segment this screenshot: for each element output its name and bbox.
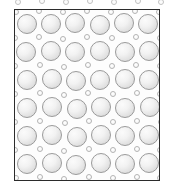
top-fringe-ring	[39, 0, 45, 4]
small-ring	[134, 118, 140, 124]
small-ring	[14, 175, 19, 181]
small-ring	[158, 119, 160, 125]
small-ring	[110, 91, 116, 97]
small-ring	[157, 147, 160, 153]
large-sphere	[139, 41, 159, 61]
small-ring	[37, 146, 43, 152]
small-ring	[133, 34, 139, 40]
large-sphere	[42, 69, 62, 89]
small-ring	[84, 9, 90, 14]
small-ring	[14, 9, 19, 15]
large-sphere	[66, 71, 86, 91]
small-ring	[36, 9, 42, 14]
large-sphere	[17, 126, 37, 146]
large-sphere	[41, 14, 61, 34]
large-sphere	[115, 98, 135, 118]
lattice-frame	[14, 9, 160, 181]
large-sphere	[90, 41, 110, 61]
small-ring	[86, 146, 92, 152]
large-sphere	[67, 99, 87, 119]
small-ring	[14, 119, 18, 125]
small-ring	[60, 36, 66, 42]
large-sphere	[115, 154, 135, 174]
small-ring	[134, 90, 140, 96]
large-sphere	[16, 42, 36, 62]
small-ring	[37, 174, 43, 180]
large-sphere	[140, 97, 160, 117]
small-ring	[37, 90, 43, 96]
small-ring	[157, 175, 160, 181]
large-sphere	[91, 97, 111, 117]
small-ring	[110, 147, 116, 153]
small-ring	[134, 146, 140, 152]
small-ring	[86, 118, 92, 124]
small-ring	[61, 92, 67, 98]
small-ring	[134, 174, 140, 180]
large-sphere	[139, 70, 159, 90]
large-sphere	[90, 70, 110, 90]
large-sphere	[115, 42, 135, 62]
small-ring	[62, 120, 68, 126]
small-ring	[132, 9, 138, 14]
large-sphere	[65, 42, 85, 62]
small-ring	[60, 9, 66, 15]
top-fringe-ring	[111, 0, 117, 5]
large-sphere	[42, 97, 62, 117]
large-sphere	[139, 125, 159, 145]
large-sphere	[17, 70, 37, 90]
small-ring	[108, 9, 114, 15]
large-sphere	[66, 155, 86, 175]
figure-root	[0, 0, 174, 191]
top-fringe-ring	[63, 0, 69, 5]
small-ring	[86, 174, 92, 180]
small-ring	[110, 119, 116, 125]
small-ring	[110, 175, 116, 181]
large-sphere	[91, 125, 111, 145]
small-ring	[14, 91, 18, 97]
small-ring	[61, 148, 67, 154]
small-ring	[157, 63, 160, 69]
small-ring	[85, 90, 91, 96]
large-sphere	[67, 127, 87, 147]
small-ring	[14, 35, 18, 41]
small-ring	[14, 63, 18, 69]
lattice-surface	[15, 10, 159, 180]
small-ring	[84, 34, 90, 40]
top-fringe-ring	[87, 0, 93, 4]
small-ring	[109, 35, 115, 41]
top-fringe-ring	[135, 0, 141, 4]
small-ring	[61, 176, 67, 181]
small-ring	[157, 35, 160, 41]
large-sphere	[90, 15, 110, 35]
top-fringe-ring	[15, 0, 21, 5]
large-sphere	[17, 14, 37, 34]
large-sphere	[17, 154, 37, 174]
small-ring	[109, 63, 115, 69]
large-sphere	[41, 41, 61, 61]
large-sphere	[42, 125, 62, 145]
large-sphere	[115, 69, 135, 89]
small-ring	[37, 118, 43, 124]
small-ring	[14, 147, 18, 153]
small-ring	[133, 62, 139, 68]
large-sphere	[65, 13, 85, 33]
top-fringe-ring	[158, 0, 164, 5]
small-ring	[36, 34, 42, 40]
small-ring	[157, 91, 160, 97]
small-ring	[85, 62, 91, 68]
large-sphere	[91, 153, 111, 173]
small-ring	[61, 64, 67, 70]
large-sphere	[115, 126, 135, 146]
large-sphere	[114, 13, 134, 33]
large-sphere	[42, 153, 62, 173]
large-sphere	[17, 98, 37, 118]
large-sphere	[138, 14, 158, 34]
large-sphere	[139, 153, 159, 173]
small-ring	[37, 62, 43, 68]
small-ring	[156, 9, 160, 15]
